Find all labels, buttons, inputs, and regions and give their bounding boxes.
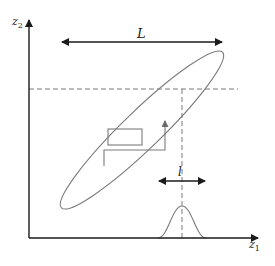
large-length-label: L bbox=[136, 26, 146, 41]
diagram-canvas: L l z2 z1 bbox=[0, 0, 275, 266]
x-axis-label: z1 bbox=[248, 238, 260, 253]
small-length-label: l bbox=[178, 165, 182, 179]
y-axis-label-subscript: 2 bbox=[18, 21, 23, 30]
y-axis-label: z2 bbox=[11, 15, 23, 30]
x-axis-label-subscript: 1 bbox=[255, 244, 260, 253]
